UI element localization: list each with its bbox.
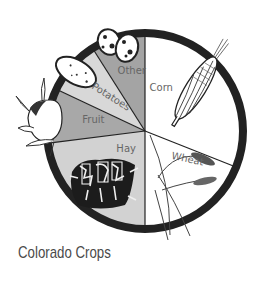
- pie-chart: CornWheatHayFruitPotatoesOther: [0, 0, 264, 281]
- slice-label-hay: Hay: [116, 143, 136, 154]
- slice-label-other: Other: [118, 65, 147, 76]
- slice-label-fruit: Fruit: [82, 114, 104, 125]
- slice-label-corn: Corn: [150, 82, 173, 93]
- chart-title: Colorado Crops: [18, 243, 111, 263]
